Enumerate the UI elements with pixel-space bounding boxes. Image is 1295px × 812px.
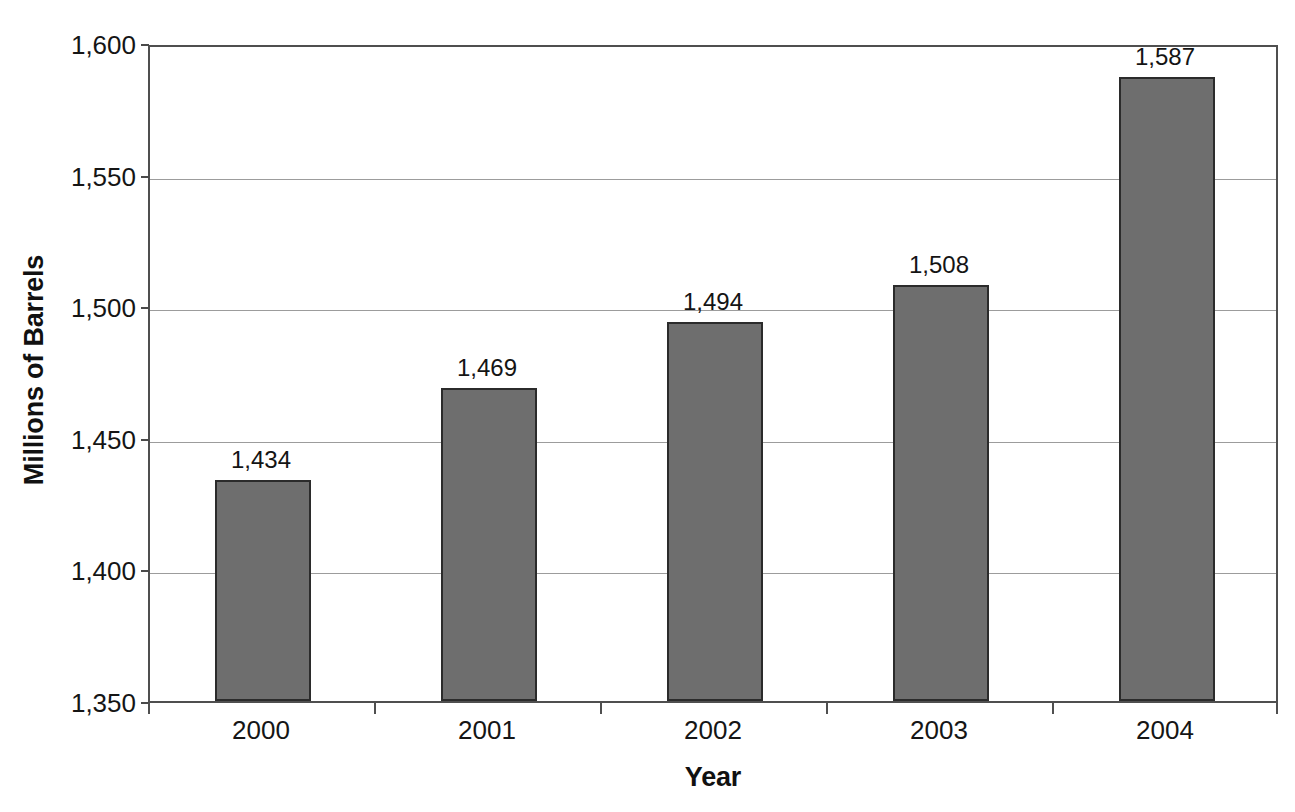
y-axis-tick-mark — [141, 439, 149, 441]
y-axis-tick-label: 1,450 — [48, 427, 136, 453]
x-axis-tick-mark — [826, 703, 828, 714]
y-axis-tick-mark — [141, 570, 149, 572]
x-axis-tick-label: 2000 — [171, 716, 351, 744]
plot-area — [148, 45, 1278, 703]
x-axis-tick-mark — [600, 703, 602, 714]
x-axis-tick-label: 2004 — [1075, 716, 1255, 744]
y-axis-tick-labels: 1,3501,4001,4501,5001,5501,600 — [48, 0, 136, 812]
x-axis-tick-label: 2001 — [397, 716, 577, 744]
bar-value-label: 1,587 — [1085, 45, 1245, 69]
y-axis-tick-label: 1,550 — [48, 164, 136, 190]
bar-value-label: 1,494 — [633, 290, 793, 314]
bar-value-label: 1,508 — [859, 253, 1019, 277]
bar[interactable] — [893, 285, 989, 701]
gridline — [150, 179, 1276, 180]
y-axis-tick-mark — [141, 44, 149, 46]
x-axis-tick-label: 2003 — [849, 716, 1029, 744]
y-axis-tick-mark — [141, 307, 149, 309]
x-axis-tick-mark — [374, 703, 376, 714]
x-axis-tick-mark — [1276, 703, 1278, 714]
bar[interactable] — [215, 480, 311, 701]
x-axis-tick-mark — [148, 703, 150, 714]
bar[interactable] — [1119, 77, 1215, 701]
y-axis-tick-label: 1,500 — [48, 295, 136, 321]
x-axis-tick-label: 2002 — [623, 716, 803, 744]
y-axis-tick-label: 1,350 — [48, 690, 136, 716]
bar-value-label: 1,434 — [181, 448, 341, 472]
bar-chart-figure: Millions of Barrels 1,3501,4001,4501,500… — [0, 0, 1295, 812]
bar-value-label: 1,469 — [407, 356, 567, 380]
x-axis-title: Year — [148, 762, 1278, 793]
y-axis-tick-label: 1,400 — [48, 558, 136, 584]
y-axis-tick-label: 1,600 — [48, 32, 136, 58]
x-axis-tick-mark — [1052, 703, 1054, 714]
bar[interactable] — [667, 322, 763, 701]
y-axis-tick-mark — [141, 176, 149, 178]
bar[interactable] — [441, 388, 537, 701]
